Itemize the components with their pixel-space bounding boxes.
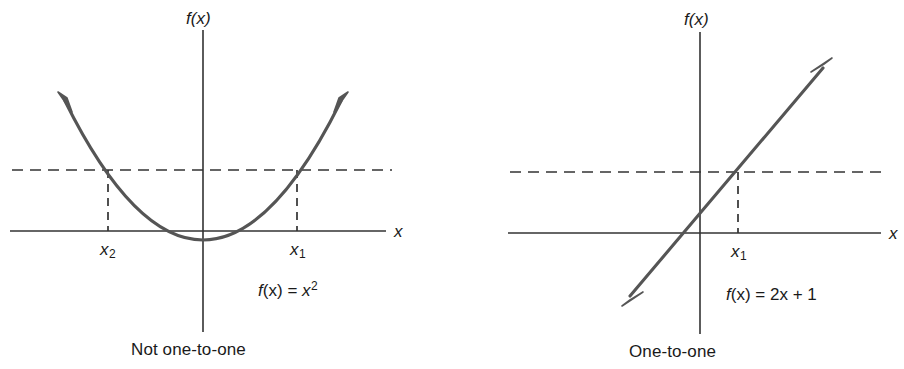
panel-caption: Not one-to-one: [131, 341, 246, 358]
tick-label-x1: x1: [731, 243, 747, 262]
parabola-left-arrowhead: [58, 92, 72, 112]
x-axis-label: x: [889, 225, 898, 242]
panel-caption: One-to-one: [629, 343, 716, 360]
equation-label: f(x) = x2: [258, 280, 318, 299]
tick-label-x2: x2: [100, 241, 116, 260]
straight-line-curve: [630, 68, 823, 296]
one-to-one-function-figure: f(x) x x2 x1 f(x) = x2 Not one-to-one: [0, 0, 904, 369]
tick-label-x1: x1: [290, 241, 306, 260]
graph-one-to-one: [452, 0, 904, 369]
y-axis-label: f(x): [186, 10, 211, 27]
y-axis-label: f(x): [684, 11, 709, 28]
graph-not-one-to-one: [0, 0, 452, 369]
panel-one-to-one: f(x) x x1 f(x) = 2x + 1 One-to-one: [452, 0, 904, 369]
equation-label: f(x) = 2x + 1: [726, 286, 817, 303]
parabola-right-arrowhead: [334, 92, 348, 112]
panel-not-one-to-one: f(x) x x2 x1 f(x) = x2 Not one-to-one: [0, 0, 452, 369]
x-axis-label: x: [394, 223, 403, 240]
